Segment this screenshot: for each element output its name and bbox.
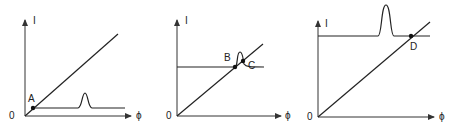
x-axis-label: ϕ bbox=[439, 111, 445, 122]
origin-label: 0 bbox=[307, 111, 313, 122]
point-label-b: B bbox=[224, 52, 231, 63]
point-b bbox=[233, 65, 237, 69]
diagonal-line bbox=[25, 34, 118, 116]
peak-curve bbox=[318, 5, 430, 36]
y-axis-label: I bbox=[33, 15, 36, 26]
origin-label: 0 bbox=[166, 110, 172, 121]
y-axis-label: I bbox=[185, 15, 188, 26]
panel-3: I ϕ 0 D bbox=[307, 5, 445, 122]
x-axis-label: ϕ bbox=[136, 110, 142, 121]
point-label-a: A bbox=[28, 93, 35, 104]
y-axis-label: I bbox=[325, 18, 328, 29]
point-label-d: D bbox=[410, 41, 417, 52]
panel-2: I ϕ 0 B C bbox=[166, 15, 291, 121]
peak-curve bbox=[33, 93, 125, 108]
diagram-canvas: I ϕ 0 A I ϕ 0 B C I ϕ 0 D bbox=[0, 0, 465, 133]
point-c bbox=[241, 59, 245, 63]
point-d bbox=[409, 34, 413, 38]
point-label-c: C bbox=[248, 60, 255, 71]
diagonal-line bbox=[177, 44, 263, 116]
panel-1: I ϕ 0 A bbox=[9, 15, 142, 121]
point-a bbox=[31, 106, 35, 110]
x-axis-label: ϕ bbox=[285, 110, 291, 121]
origin-label: 0 bbox=[9, 110, 15, 121]
